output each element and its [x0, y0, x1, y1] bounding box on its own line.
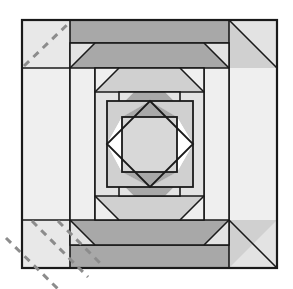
- ring-outer-left-band: [22, 68, 70, 220]
- center-inner-square: [122, 117, 177, 172]
- ring-two-bottom-bar: [70, 220, 229, 245]
- ring-two-left-band: [70, 68, 95, 220]
- ring-two-right-band: [204, 68, 229, 220]
- ring-two-top-bar: [70, 43, 229, 68]
- center-square-in-square: [107, 101, 193, 187]
- ring-outer-bottom-bar: [70, 245, 229, 268]
- ring-outer-right-band: [229, 68, 277, 220]
- ring-outer-top-bar: [70, 20, 229, 43]
- quilt-block-diagram: [0, 0, 293, 289]
- quilt-block-svg: [0, 0, 293, 289]
